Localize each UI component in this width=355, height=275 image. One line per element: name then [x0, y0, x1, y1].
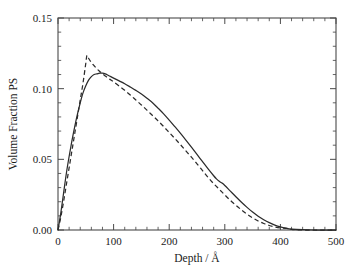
x-tick-label: 100: [105, 235, 122, 247]
x-tick-label: 500: [328, 235, 345, 247]
x-axis-tick-labels: 0100200300400500: [55, 235, 345, 247]
y-axis-tick-labels: 0.000.050.100.15: [33, 12, 53, 236]
x-tick-label: 400: [272, 235, 289, 247]
y-tick-label: 0.05: [33, 153, 53, 165]
x-tick-label: 0: [55, 235, 61, 247]
y-tick-label: 0.15: [33, 12, 53, 24]
x-tick-label: 300: [217, 235, 234, 247]
figure-container: 0100200300400500 0.000.050.100.15 Depth …: [0, 0, 355, 275]
y-tick-label: 0.10: [33, 83, 53, 95]
x-axis-title: Depth / Å: [174, 251, 220, 265]
x-tick-label: 200: [161, 235, 178, 247]
volume-fraction-depth-chart: 0100200300400500 0.000.050.100.15 Depth …: [0, 0, 355, 275]
y-axis-title: Volume Fraction PS: [7, 78, 19, 170]
plot-background: [58, 18, 336, 230]
y-tick-label: 0.00: [33, 224, 53, 236]
